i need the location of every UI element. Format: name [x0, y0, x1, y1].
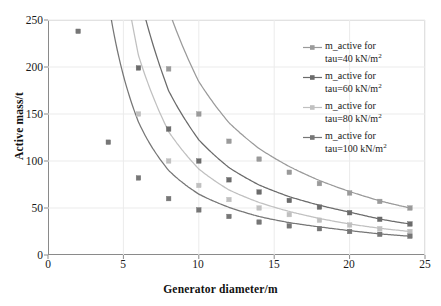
legend-label-line1: m_active for [325, 70, 435, 82]
legend-marker-icon [303, 74, 322, 81]
legend-item: m_active fortau=80 kN/m2 [303, 100, 435, 125]
chart-figure: 0 50 100 150 200 250 0 5 10 15 20 25 Gen… [0, 0, 441, 306]
legend-item: m_active fortau=60 kN/m2 [303, 70, 435, 95]
legend-marker-icon [303, 134, 322, 141]
legend-label-exponent: 2 [378, 82, 382, 90]
y-tick-label: 50 [13, 202, 43, 214]
legend-item: m_active fortau=40 kN/m2 [303, 40, 435, 65]
x-tick-label: 15 [268, 258, 280, 270]
legend-label-exponent: 2 [378, 52, 382, 60]
legend-label-line2: tau=40 kN/m2 [325, 52, 435, 65]
legend-label-exponent: 2 [378, 112, 382, 120]
legend-label-line2: tau=100 kN/m2 [325, 142, 435, 155]
legend-label-line1: m_active for [325, 130, 435, 142]
legend-label-tau: tau=100 kN/m [325, 143, 383, 154]
y-axis-title: Active mass/t [13, 66, 25, 186]
legend-label-line1: m_active for [325, 100, 435, 112]
legend-item: m_active fortau=100 kN/m2 [303, 130, 435, 155]
legend-label-line1: m_active for [325, 40, 435, 52]
legend-label-tau: tau=60 kN/m [325, 83, 378, 94]
y-tick-label: 0 [13, 249, 43, 261]
legend-label-line2: tau=80 kN/m2 [325, 112, 435, 125]
legend-label-tau: tau=80 kN/m [325, 113, 378, 124]
x-axis-title: Generator diameter/m [0, 283, 441, 295]
legend-marker-icon [303, 44, 322, 51]
chart-legend: m_active fortau=40 kN/m2m_active fortau=… [303, 40, 435, 160]
legend-label-line2: tau=60 kN/m2 [325, 82, 435, 95]
x-tick-label: 5 [120, 258, 126, 270]
x-tick-label: 10 [192, 258, 204, 270]
x-tick-label: 0 [45, 258, 51, 270]
legend-label-tau: tau=40 kN/m [325, 53, 378, 64]
legend-marker-icon [303, 104, 322, 111]
y-tick-label: 250 [13, 14, 43, 26]
x-tick-label: 25 [419, 258, 431, 270]
legend-label-exponent: 2 [383, 142, 387, 150]
x-tick-label: 20 [343, 258, 355, 270]
